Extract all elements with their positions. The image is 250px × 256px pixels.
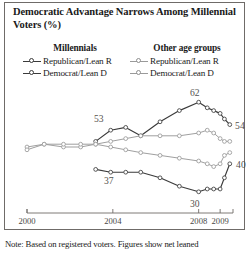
chart-title: Democratic Advantage Narrows Among Mille… [13,6,237,31]
legend-line-marker-icon [23,57,41,66]
legend-line-marker-icon [23,69,41,78]
legend-item-millennials-republican: Republican/Lean R [23,55,133,67]
chart-legend: Millennials Republican/Lean R Democrat/L… [5,43,246,85]
legend-group-other-age-groups: Other age groups Republican/Lean R Democ… [130,43,246,79]
data-label: 40 [236,159,246,170]
data-label: 30 [190,198,200,209]
data-label: 54 [235,120,245,131]
x-axis-tick-label: 2009 [212,216,229,226]
legend-group-millennials: Millennials Republican/Lean R Democrat/L… [23,43,133,79]
x-axis-tick-label: 2004 [104,216,122,226]
data-label: 53 [94,113,104,124]
x-axis-tick-label: 2008 [190,216,207,226]
legend-item-label: Republican/Lean R [150,56,219,66]
legend-group-heading: Other age groups [130,43,246,53]
legend-group-heading: Millennials [23,43,133,53]
chart-plot-area: 536254373040 2000200420082009 [5,85,246,231]
series-layer [25,100,232,193]
legend-item-label: Democrat/Lean D [43,68,107,78]
legend-item-millennials-democrat: Democrat/Lean D [23,67,133,79]
x-axis-tick-label: 2000 [18,216,35,226]
series-light [25,128,232,149]
legend-item-other-republican: Republican/Lean R [130,55,246,67]
series-dark [94,162,232,194]
legend-item-label: Republican/Lean R [43,56,112,66]
x-axis: 2000200420082009 [18,209,233,226]
legend-line-marker-icon [130,69,148,78]
legend-item-label: Democrat/Lean D [150,68,214,78]
data-label: 37 [104,175,114,186]
series-dark [94,100,232,143]
chart-panel: Democratic Advantage Narrows Among Mille… [4,2,245,230]
legend-line-marker-icon [130,57,148,66]
line-chart-svg: 536254373040 2000200420082009 [5,85,246,231]
legend-item-other-democrat: Democrat/Lean D [130,67,246,79]
data-label: 62 [190,87,200,98]
chart-note: Note: Based on registered voters. Figure… [5,239,248,249]
